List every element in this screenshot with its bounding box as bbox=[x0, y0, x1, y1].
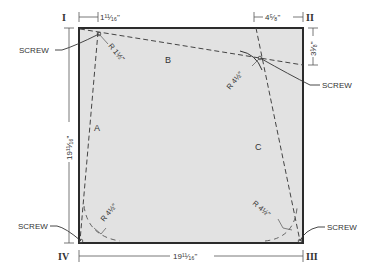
screw-callout-bottom-right: SCREW bbox=[327, 223, 357, 232]
corner-label-ii: II bbox=[306, 12, 314, 23]
region-label-b: B bbox=[165, 55, 171, 65]
corner-label-i: I bbox=[62, 12, 66, 23]
dim-right-top-offset: 3¹⁄₈" bbox=[309, 41, 318, 56]
region-label-a: A bbox=[94, 123, 100, 133]
dim-bottom-width: 19¹¹⁄₁₆" bbox=[173, 252, 197, 261]
screw-callout-top-left: SCREW bbox=[19, 46, 49, 55]
cutting-diagram: I II III IV A B C 1¹¹⁄₁₆" 4⁵⁄₈" 3¹⁄₈" 19… bbox=[0, 0, 372, 278]
dim-top-right-offset: 4⁵⁄₈" bbox=[265, 13, 280, 22]
screw-callout-top-right: SCREW bbox=[322, 81, 352, 90]
screw-callout-bottom-left: SCREW bbox=[18, 222, 48, 231]
corner-label-iv: IV bbox=[58, 251, 70, 262]
dim-top-left-offset: 1¹¹⁄₁₆" bbox=[100, 13, 120, 22]
dim-left-height: 19¹¹⁄₁₆" bbox=[65, 136, 74, 160]
corner-label-iii: III bbox=[306, 251, 318, 262]
region-label-c: C bbox=[255, 142, 262, 152]
